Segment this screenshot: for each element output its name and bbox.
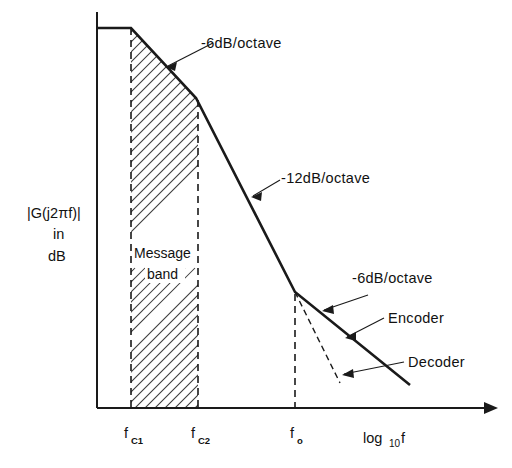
x-axis-label-tail: f [401, 430, 406, 446]
tick-fc1-subscript: C1 [131, 435, 144, 446]
tick-fo-subscript: o [297, 435, 303, 446]
y-axis-label: |G(j2πf)| in dB [27, 205, 81, 264]
tick-fo-base: f [290, 425, 295, 441]
tick-fc2-base: f [191, 425, 196, 441]
tick-label-fc2: f C2 [191, 425, 210, 446]
y-axis-label-line3: dB [48, 248, 66, 264]
annotation-decoder: Decoder [408, 354, 465, 370]
decoder-extension-line [295, 292, 340, 383]
leader-slope-3-arrowhead [322, 305, 334, 314]
encoder-response-curve [97, 28, 410, 385]
message-band-region [55, 0, 355, 438]
x-axis-label-subscript: 10 [389, 438, 401, 449]
message-band-label-line1: Message [134, 245, 191, 261]
y-axis-label-line2: in [53, 226, 64, 242]
annotation-slope-1: -6dB/octave [201, 35, 282, 51]
corner-guides [131, 28, 295, 408]
tick-label-fo: f o [290, 425, 303, 446]
x-axis-arrowhead [484, 402, 498, 414]
annotation-encoder: Encoder [388, 310, 444, 326]
tick-label-fc1: f C1 [124, 425, 144, 446]
message-band-label-line2: band [147, 266, 178, 282]
annotation-slope-3: -6dB/octave [352, 270, 433, 286]
annotation-slope-2: -12dB/octave [281, 170, 370, 186]
leader-decoder-arrowhead [342, 369, 354, 378]
bode-magnitude-diagram: |G(j2πf)| in dB log 10 f f C1 f C2 f o M… [0, 0, 512, 468]
diagram-canvas: |G(j2πf)| in dB log 10 f f C1 f C2 f o M… [0, 0, 512, 468]
tick-fc2-subscript: C2 [198, 435, 210, 446]
leader-slope-2 [253, 180, 280, 196]
x-axis-label: log 10 f [363, 430, 406, 449]
tick-fc1-base: f [124, 425, 129, 441]
y-axis-label-line1: |G(j2πf)| [27, 205, 81, 221]
x-axis-label-base: log [363, 430, 382, 446]
